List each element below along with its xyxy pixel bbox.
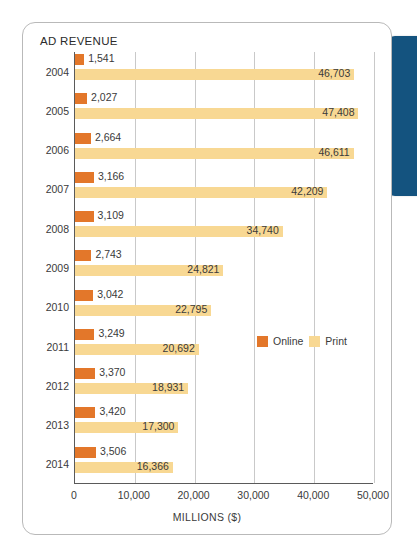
legend-item: Print [309,335,347,347]
bar-label-online: 3,420 [99,406,125,417]
y-axis-label: 2009 [25,262,69,274]
bar-group: 3,10934,740 [75,209,373,248]
bar-label-print: 46,703 [306,68,350,79]
bar-label-print: 18,931 [140,382,184,393]
x-axis-tick-label: 10,000 [118,489,150,501]
plot-area: 1,54146,7032,02747,4082,66446,6113,16642… [74,52,373,484]
y-axis-label: 2004 [25,66,69,78]
bar-label-online: 3,370 [99,367,125,378]
chart-title: AD REVENUE [40,35,118,47]
bar-label-print: 17,300 [130,421,174,432]
bar-group: 2,66446,611 [75,131,373,170]
bar-label-print: 16,366 [125,461,169,472]
bar-label-print: 24,821 [175,264,219,275]
y-axis-label: 2006 [25,144,69,156]
bar-label-print: 34,740 [235,225,279,236]
bar-online [75,250,91,261]
bar-online [75,93,87,104]
bar-group: 3,04222,795 [75,288,373,327]
bar-group: 3,50616,366 [75,445,373,484]
bar-label-print: 47,408 [310,107,354,118]
y-axis-label: 2005 [25,105,69,117]
bar-label-online: 3,042 [97,289,123,300]
x-axis-tick-label: 40,000 [297,489,329,501]
legend-swatch [257,336,268,347]
bar-label-online: 2,664 [95,132,121,143]
chart-card: AD REVENUE 1,54146,7032,02747,4082,66446… [22,22,392,535]
bar-group: 3,16642,209 [75,170,373,209]
bar-label-online: 2,027 [91,92,117,103]
bar-label-print: 20,692 [151,343,195,354]
legend-label: Online [273,335,303,347]
bar-label-online: 1,541 [88,53,114,64]
x-axis-title: MILLIONS ($) [23,511,391,523]
bar-group: 2,74324,821 [75,248,373,287]
bar-label-online: 3,506 [100,446,126,457]
y-axis-label: 2008 [25,223,69,235]
bar-online [75,329,94,340]
legend-label: Print [325,335,347,347]
bar-online [75,407,95,418]
x-axis-tick-label: 50,000 [357,489,389,501]
x-axis-tick-label: 0 [71,489,77,501]
y-axis-label: 2010 [25,301,69,313]
bar-label-online: 3,166 [98,171,124,182]
y-axis-label: 2014 [25,458,69,470]
bar-label-online: 3,249 [98,328,124,339]
bar-group: 2,02747,408 [75,91,373,130]
x-axis-tick-label: 20,000 [178,489,210,501]
y-axis-label: 2013 [25,419,69,431]
legend-item: Online [257,335,303,347]
bar-online [75,368,95,379]
chart-screenshot: AD REVENUE 1,54146,7032,02747,4082,66446… [0,0,417,558]
bar-group: 1,54146,703 [75,52,373,91]
gridline [374,52,375,483]
y-axis-label: 2007 [25,183,69,195]
bar-group: 3,37018,931 [75,366,373,405]
bar-online [75,447,96,458]
bar-group: 3,42017,300 [75,405,373,444]
bar-online [75,133,91,144]
blue-side-tab [388,36,417,196]
x-axis-tick-label: 30,000 [237,489,269,501]
bar-online [75,172,94,183]
y-axis-label: 2011 [25,341,69,353]
bar-label-online: 3,109 [98,210,124,221]
bar-label-online: 2,743 [95,249,121,260]
bar-label-print: 22,795 [163,304,207,315]
chart-legend: OnlinePrint [257,335,347,347]
bar-online [75,211,94,222]
bar-label-print: 42,209 [279,186,323,197]
y-axis-label: 2012 [25,380,69,392]
legend-swatch [309,336,320,347]
bar-online [75,54,84,65]
bar-label-print: 46,611 [306,147,350,158]
bar-online [75,290,93,301]
